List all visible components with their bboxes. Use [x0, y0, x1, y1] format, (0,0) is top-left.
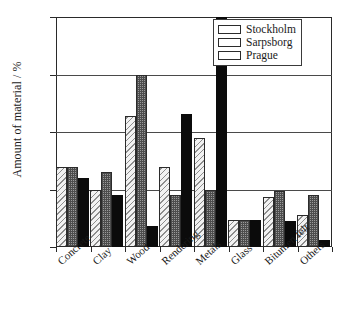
legend-label: Prague — [246, 50, 278, 62]
legend-swatch-icon — [218, 38, 241, 47]
x-category-label: Clay — [90, 244, 113, 267]
legend: StockholmSarpsborgPrague — [213, 19, 302, 66]
bar — [181, 114, 192, 247]
x-tick-mark — [56, 247, 57, 252]
bar-group — [297, 17, 330, 247]
x-tick-mark — [125, 247, 126, 252]
bar — [228, 220, 239, 247]
legend-item: Prague — [218, 49, 296, 62]
bar — [56, 167, 67, 248]
legend-swatch-icon — [218, 51, 241, 60]
bar — [101, 172, 112, 247]
bar — [250, 220, 261, 247]
x-tick-mark — [263, 247, 264, 252]
x-tick-mark — [298, 247, 299, 252]
bar — [147, 226, 158, 247]
bar-group — [90, 17, 123, 247]
bar — [136, 75, 147, 248]
bar — [159, 167, 170, 247]
bar — [67, 167, 78, 248]
legend-label: Sarpsborg — [246, 37, 292, 49]
x-tick-mark — [91, 247, 92, 252]
x-tick-mark — [160, 247, 161, 252]
bar-group — [125, 17, 158, 247]
bar — [112, 195, 123, 247]
x-tick-mark — [229, 247, 230, 252]
legend-swatch-icon — [218, 25, 241, 34]
bar-group — [159, 17, 192, 247]
bar-chart: Amount of material / % 010203040 Concret… — [0, 0, 340, 311]
legend-item: Sarpsborg — [218, 36, 296, 49]
x-tick-mark — [194, 247, 195, 252]
legend-item: Stockholm — [218, 23, 296, 36]
bar — [263, 197, 274, 247]
bar-group — [56, 17, 89, 247]
bar — [125, 116, 136, 247]
y-axis-title: Amount of material / % — [10, 20, 25, 220]
x-tick-mark — [332, 247, 333, 252]
legend-label: Stockholm — [246, 24, 296, 36]
